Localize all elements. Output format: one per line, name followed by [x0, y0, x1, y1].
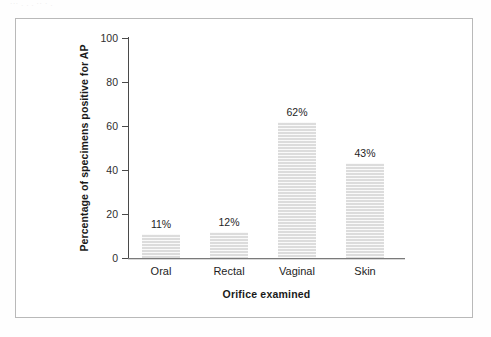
bar-oral	[142, 234, 180, 258]
y-axis-line	[128, 37, 129, 259]
bar-value-label-oral: 11%	[131, 218, 191, 230]
bar-chart: 020406080100 Percentage of specimens pos…	[0, 0, 491, 337]
bar-rectal	[210, 232, 248, 258]
y-tick-label: 100	[100, 32, 118, 44]
y-tick-label: 40	[106, 164, 118, 176]
y-tick-mark	[122, 258, 128, 259]
x-axis-title: Orifice examined	[128, 288, 405, 300]
x-category-label-rectal: Rectal	[195, 265, 263, 277]
y-tick-mark	[122, 126, 128, 127]
y-tick-mark	[122, 214, 128, 215]
y-axis-title: Percentage of specimens positive for AP	[78, 44, 90, 251]
y-tick-mark	[122, 82, 128, 83]
x-category-label-oral: Oral	[127, 265, 195, 277]
y-tick-label: 0	[112, 252, 118, 264]
x-category-label-vaginal: Vaginal	[263, 265, 331, 277]
bar-value-label-vaginal: 62%	[267, 106, 327, 118]
bar-vaginal	[278, 122, 316, 258]
y-tick-label: 20	[106, 208, 118, 220]
y-tick-mark	[122, 170, 128, 171]
figure-page: ··· . . . ·· · . 020406080100 Percentage…	[0, 0, 491, 337]
x-category-label-skin: Skin	[331, 265, 399, 277]
bar-value-label-skin: 43%	[335, 147, 395, 159]
y-tick-label: 60	[106, 120, 118, 132]
y-tick-mark	[122, 38, 128, 39]
bar-skin	[346, 163, 384, 258]
x-axis-line	[128, 258, 405, 259]
y-tick-label: 80	[106, 76, 118, 88]
bar-value-label-rectal: 12%	[199, 216, 259, 228]
